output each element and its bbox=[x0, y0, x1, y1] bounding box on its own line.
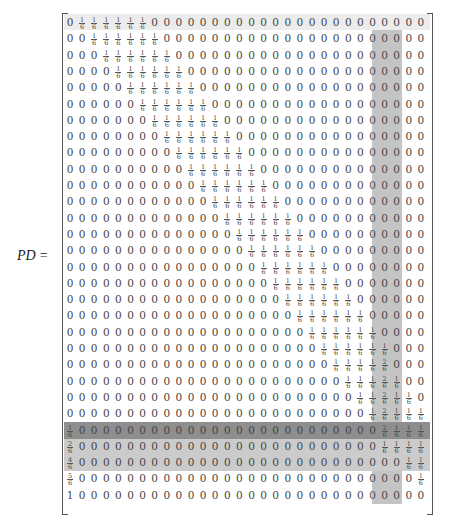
matrix-cell: 16 bbox=[233, 193, 245, 209]
matrix-cell: 0 bbox=[342, 47, 354, 63]
matrix-cell: 0 bbox=[173, 405, 185, 421]
matrix-cell: 16 bbox=[306, 242, 318, 258]
matrix-cell: 0 bbox=[270, 487, 282, 503]
matrix-cell: 16 bbox=[306, 259, 318, 275]
matrix-cell: 0 bbox=[100, 487, 112, 503]
matrix-cell: 0 bbox=[112, 96, 124, 112]
matrix-cell: 0 bbox=[246, 470, 258, 486]
matrix-cell: 0 bbox=[233, 470, 245, 486]
matrix-cell: 0 bbox=[125, 128, 137, 144]
matrix-cell: 0 bbox=[306, 454, 318, 470]
matrix-cell: 0 bbox=[246, 275, 258, 291]
matrix-cell: 0 bbox=[367, 242, 379, 258]
matrix-cell: 0 bbox=[161, 389, 173, 405]
matrix-cell: 0 bbox=[330, 47, 342, 63]
matrix-cell: 0 bbox=[221, 356, 233, 372]
matrix-cell: 0 bbox=[403, 291, 415, 307]
matrix-cell: 16 bbox=[246, 193, 258, 209]
matrix-cell: 0 bbox=[270, 470, 282, 486]
matrix-cell: 0 bbox=[318, 96, 330, 112]
matrix-cell: 0 bbox=[112, 79, 124, 95]
matrix-cell: 0 bbox=[209, 373, 221, 389]
matrix-cell: 0 bbox=[185, 177, 197, 193]
matrix-cell: 0 bbox=[294, 487, 306, 503]
matrix-cell: 0 bbox=[415, 356, 427, 372]
matrix-cell: 16 bbox=[137, 30, 149, 46]
matrix-cell: 0 bbox=[270, 128, 282, 144]
matrix-cell: 0 bbox=[197, 291, 209, 307]
matrix-cell: 16 bbox=[415, 470, 427, 486]
matrix-cell: 16 bbox=[318, 291, 330, 307]
matrix-cell: 0 bbox=[354, 422, 366, 438]
matrix-cell: 0 bbox=[221, 96, 233, 112]
matrix-cell: 0 bbox=[197, 389, 209, 405]
matrix-cell: 0 bbox=[112, 405, 124, 421]
matrix-cell: 0 bbox=[282, 405, 294, 421]
matrix-cell: 16 bbox=[258, 259, 270, 275]
matrix-cell: 0 bbox=[100, 177, 112, 193]
matrix-cell: 0 bbox=[64, 356, 76, 372]
matrix-cell: 0 bbox=[403, 226, 415, 242]
matrix-cell: 0 bbox=[342, 275, 354, 291]
matrix-cell: 0 bbox=[306, 422, 318, 438]
matrix-cell: 0 bbox=[270, 96, 282, 112]
matrix-cell: 0 bbox=[76, 307, 88, 323]
matrix-cell: 0 bbox=[318, 193, 330, 209]
matrix-cell: 16 bbox=[306, 324, 318, 340]
matrix-cell: 0 bbox=[354, 30, 366, 46]
matrix-cell: 0 bbox=[137, 373, 149, 389]
matrix-cell: 0 bbox=[88, 275, 100, 291]
matrix-cell: 0 bbox=[415, 47, 427, 63]
matrix-cell: 0 bbox=[161, 177, 173, 193]
matrix-cell: 0 bbox=[415, 14, 427, 30]
matrix-cell: 16 bbox=[197, 96, 209, 112]
matrix-cell: 0 bbox=[161, 438, 173, 454]
matrix-cell: 0 bbox=[415, 30, 427, 46]
matrix-cell: 0 bbox=[415, 324, 427, 340]
matrix-cell: 0 bbox=[88, 356, 100, 372]
matrix-cell: 16 bbox=[137, 79, 149, 95]
matrix-cell: 16 bbox=[64, 422, 76, 438]
matrix-cell: 0 bbox=[403, 161, 415, 177]
matrix-cell: 0 bbox=[112, 291, 124, 307]
matrix-cell: 0 bbox=[306, 470, 318, 486]
matrix-cell: 0 bbox=[391, 324, 403, 340]
matrix-cell: 0 bbox=[112, 275, 124, 291]
matrix-cell: 0 bbox=[149, 438, 161, 454]
matrix-cell: 0 bbox=[137, 144, 149, 160]
matrix-cell: 16 bbox=[76, 14, 88, 30]
matrix-cell: 0 bbox=[246, 30, 258, 46]
matrix-cell: 0 bbox=[330, 128, 342, 144]
matrix-cell: 0 bbox=[88, 307, 100, 323]
matrix-cell: 0 bbox=[391, 307, 403, 323]
matrix-cell: 0 bbox=[342, 259, 354, 275]
matrix-cell: 0 bbox=[161, 373, 173, 389]
matrix-cell: 0 bbox=[221, 307, 233, 323]
matrix-cell: 0 bbox=[294, 63, 306, 79]
matrix-cell: 0 bbox=[233, 405, 245, 421]
matrix-cell: 0 bbox=[391, 242, 403, 258]
matrix-cell: 0 bbox=[403, 128, 415, 144]
matrix-cell: 0 bbox=[294, 340, 306, 356]
matrix-cell: 0 bbox=[282, 30, 294, 46]
matrix-cell: 0 bbox=[415, 487, 427, 503]
matrix-cell: 0 bbox=[209, 389, 221, 405]
matrix-cell: 0 bbox=[100, 210, 112, 226]
matrix-cell: 0 bbox=[209, 47, 221, 63]
matrix-cell: 0 bbox=[221, 438, 233, 454]
matrix-cell: 0 bbox=[306, 79, 318, 95]
matrix-cell: 0 bbox=[270, 389, 282, 405]
matrix-cell: 0 bbox=[88, 210, 100, 226]
matrix-cell: 0 bbox=[403, 63, 415, 79]
matrix-cell: 0 bbox=[294, 454, 306, 470]
matrix-cell: 0 bbox=[197, 405, 209, 421]
matrix-cell: 0 bbox=[149, 14, 161, 30]
matrix-cell: 16 bbox=[403, 389, 415, 405]
matrix-cell: 0 bbox=[112, 454, 124, 470]
matrix-cell: 0 bbox=[330, 373, 342, 389]
matrix-cell: 0 bbox=[221, 324, 233, 340]
right-bracket bbox=[427, 13, 433, 515]
matrix-cell: 0 bbox=[149, 405, 161, 421]
matrix-cell: 0 bbox=[379, 210, 391, 226]
matrix-cell: 0 bbox=[391, 14, 403, 30]
